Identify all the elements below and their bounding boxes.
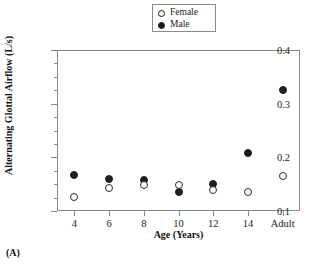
y-tick-label: 0.2 — [277, 152, 290, 163]
x-tick — [144, 211, 145, 216]
y-tick-minor — [54, 90, 58, 91]
x-tick-label: 8 — [141, 218, 146, 229]
x-tick-label: Adult — [271, 218, 295, 229]
data-point-male — [105, 175, 113, 183]
legend-entry-male: Male — [158, 19, 190, 31]
data-point-female — [209, 186, 217, 194]
y-tick-minor — [54, 63, 58, 64]
y-tick-minor — [54, 198, 58, 199]
data-point-male — [244, 149, 252, 157]
chart-figure: Female Male Alternating Glottal Airflow … — [0, 0, 321, 267]
y-tick-minor — [54, 117, 58, 118]
y-tick-major — [51, 104, 57, 105]
x-tick — [213, 211, 214, 216]
legend-label-female: Female — [170, 8, 198, 18]
y-tick-label: 0.4 — [277, 45, 290, 56]
x-tick — [248, 211, 249, 216]
data-point-female — [140, 181, 148, 189]
data-point-female — [175, 181, 183, 189]
x-tick — [179, 211, 180, 216]
y-tick-minor — [54, 131, 58, 132]
y-tick-minor — [54, 171, 58, 172]
y-tick-minor — [54, 77, 58, 78]
legend-label-male: Male — [170, 20, 190, 30]
x-tick-label: 10 — [173, 218, 184, 229]
y-axis-title-container: Alternating Glottal Airflow (L/s) — [0, 50, 34, 211]
chart-legend: Female Male — [152, 4, 216, 32]
plot-area: 0.10.20.30.4 — [57, 50, 300, 211]
x-axis-title: Age (Years) — [57, 229, 300, 240]
x-tick-label: 4 — [72, 218, 77, 229]
y-tick-major — [51, 50, 57, 51]
y-tick-major — [51, 157, 57, 158]
data-point-female — [70, 193, 78, 201]
data-point-female — [105, 184, 113, 192]
data-point-female — [244, 188, 252, 196]
data-point-male — [70, 171, 78, 179]
x-tick — [74, 211, 75, 216]
open-circle-icon — [158, 10, 165, 17]
filled-circle-icon — [158, 22, 165, 29]
y-tick-minor — [54, 144, 58, 145]
y-tick-label: 0.3 — [277, 98, 290, 109]
y-axis-title: Alternating Glottal Airflow (L/s) — [3, 0, 14, 256]
x-tick-label: 6 — [106, 218, 111, 229]
x-tick — [283, 211, 284, 216]
x-tick-label: 14 — [243, 218, 254, 229]
x-tick-label: 12 — [208, 218, 219, 229]
data-point-male — [175, 188, 183, 196]
legend-entry-female: Female — [158, 7, 198, 19]
panel-caption: (A) — [6, 247, 20, 258]
x-tick — [109, 211, 110, 216]
y-tick-minor — [54, 184, 58, 185]
data-point-male — [279, 86, 287, 94]
data-point-female — [279, 172, 287, 180]
